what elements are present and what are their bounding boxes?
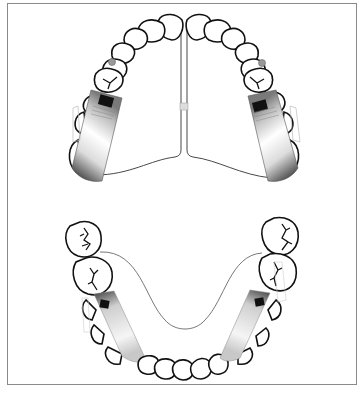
dental-arches-diagram — [0, 0, 363, 395]
hook — [290, 106, 300, 142]
upper-right-teeth — [186, 14, 272, 92]
hook-ball — [259, 60, 266, 67]
lower-arch — [66, 218, 298, 380]
bracket-attachment — [99, 299, 109, 308]
upper-arch — [69, 14, 300, 181]
lower-incisors — [138, 354, 228, 380]
upper-left-teeth — [94, 14, 182, 92]
bracket-attachment — [254, 297, 264, 306]
hook-ball — [109, 59, 116, 66]
upper-right-appliance — [248, 90, 300, 181]
wire-joint — [180, 103, 188, 110]
upper-left-appliance — [69, 90, 122, 181]
